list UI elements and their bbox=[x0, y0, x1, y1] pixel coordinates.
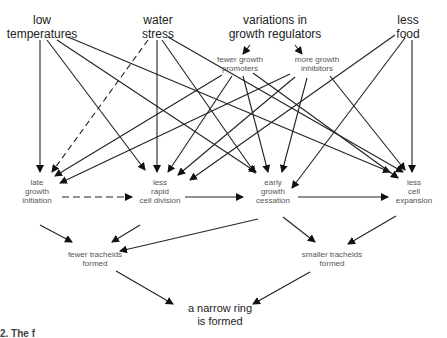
edge-inhibitors-init bbox=[60, 74, 290, 183]
figure-caption: 2. The f bbox=[0, 328, 35, 338]
edge-division-fewer bbox=[112, 225, 140, 242]
edge-init-fewer bbox=[40, 225, 72, 242]
node-more-inhibitors: more growth inhibitors bbox=[282, 55, 352, 73]
node-narrow-ring: a narrow ring is formed bbox=[170, 302, 270, 327]
node-growth-regulators: variations in growth regulators bbox=[215, 14, 335, 42]
edge-inhibitors-cessation bbox=[282, 78, 307, 172]
edge-regulators-inhibitors bbox=[295, 45, 302, 54]
edge-water-init bbox=[52, 40, 148, 172]
edge-lowtemp-division bbox=[47, 40, 145, 170]
node-smaller-tracheids: smaller tracheids formed bbox=[290, 250, 374, 268]
edge-regulators-promoters bbox=[243, 45, 250, 54]
node-less-cell-expansion: less cell expansion bbox=[386, 178, 442, 206]
node-early-growth-cessation: early growth cessation bbox=[245, 178, 301, 206]
node-water-stress: water stress bbox=[128, 14, 188, 42]
node-less-food: less food bbox=[382, 14, 434, 42]
edge-cessation-smaller bbox=[283, 217, 315, 242]
edge-cessation-fewer bbox=[120, 219, 258, 251]
node-low-temperatures: low temperatures bbox=[6, 14, 78, 42]
edge-smaller-ring bbox=[253, 272, 310, 304]
node-fewer-promoters: fewer growth promoters bbox=[205, 55, 275, 73]
node-fewer-tracheids: fewer tracheids formed bbox=[55, 250, 135, 268]
edge-expansion-smaller bbox=[348, 216, 396, 244]
diagram-edges bbox=[0, 0, 447, 338]
edge-promoters-expansion bbox=[253, 73, 398, 178]
node-less-rapid-cell-division: less rapid cell division bbox=[130, 178, 190, 206]
edge-inhibitors-division bbox=[178, 77, 295, 175]
edge-fewer-ring bbox=[116, 271, 173, 304]
node-late-growth-initiation: late growth initiation bbox=[10, 178, 64, 206]
